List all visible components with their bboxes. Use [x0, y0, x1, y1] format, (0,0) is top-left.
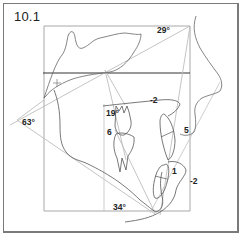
value-label-lip: 5	[184, 125, 189, 135]
angle-label-inner: 19°	[106, 108, 119, 118]
angle-label-bottom: 34°	[113, 202, 126, 212]
esthetic-line	[150, 82, 220, 213]
value-label-lower-incisor: 1	[172, 166, 177, 176]
angle-label-left: 63°	[22, 117, 35, 127]
cephalometric-tracing: 29° 63° 19° 34° -2 6 5 1 -2	[0, 0, 243, 237]
construction-line-sn	[10, 26, 190, 125]
upper-incisor-cej	[161, 131, 174, 137]
construction-line-left-lower	[17, 120, 155, 214]
analysis-box-outline	[44, 26, 190, 211]
value-label-chin: -2	[190, 176, 198, 186]
construction-line-upper	[105, 70, 125, 105]
angle-label-top: 29°	[157, 25, 170, 35]
value-label-palatal: -2	[150, 95, 158, 105]
value-label-molar: 6	[107, 127, 112, 137]
cranial-outline	[44, 32, 141, 98]
